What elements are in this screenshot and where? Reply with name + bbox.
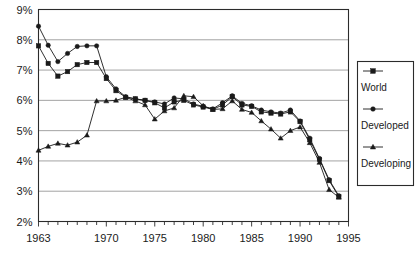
data-point-circle xyxy=(371,107,376,112)
data-point-square xyxy=(75,62,79,66)
series-world xyxy=(36,44,341,199)
y-axis-tick-labels: 2%3%4%5%6%7%8%9% xyxy=(17,4,33,228)
data-point-square xyxy=(46,61,50,65)
y-tick-label: 4% xyxy=(17,155,33,167)
plot-frame xyxy=(39,10,349,222)
x-tick-label: 1963 xyxy=(26,232,50,244)
y-tick-label: 8% xyxy=(17,34,33,46)
data-point-circle xyxy=(65,51,69,55)
data-point-circle xyxy=(288,108,292,112)
series-developed xyxy=(36,24,341,198)
data-point-circle xyxy=(327,178,331,182)
x-tick-label: 1995 xyxy=(336,232,360,244)
y-tick-label: 6% xyxy=(17,94,33,106)
series-layer xyxy=(36,24,341,199)
x-axis-tick-labels: 1963197019751980198519901995 xyxy=(26,232,360,244)
y-tick-label: 7% xyxy=(17,64,33,76)
data-point-square xyxy=(85,60,89,64)
data-point-triangle xyxy=(75,140,80,144)
data-point-triangle xyxy=(327,187,332,191)
x-tick-label: 1980 xyxy=(191,232,215,244)
data-point-circle xyxy=(94,44,98,48)
data-point-square xyxy=(65,69,69,73)
x-tick-label: 1990 xyxy=(288,232,312,244)
data-point-triangle xyxy=(84,133,89,137)
data-point-circle xyxy=(46,43,50,47)
line-chart: 2%3%4%5%6%7%8%9% 19631970197519801985199… xyxy=(0,0,417,259)
x-axis-ticks xyxy=(39,222,349,227)
data-point-circle xyxy=(85,44,89,48)
y-tick-label: 2% xyxy=(17,216,33,228)
data-point-circle xyxy=(104,75,108,79)
data-point-circle xyxy=(220,101,224,105)
data-point-circle xyxy=(114,87,118,91)
legend-label: Developing xyxy=(361,158,411,169)
data-point-circle xyxy=(56,59,60,63)
data-point-square xyxy=(56,74,60,78)
data-point-circle xyxy=(240,101,244,105)
legend-label: World xyxy=(361,82,387,93)
data-point-circle xyxy=(230,94,234,98)
data-point-square xyxy=(36,44,40,48)
chart-container: 2%3%4%5%6%7%8%9% 19631970197519801985199… xyxy=(0,0,417,259)
data-point-circle xyxy=(278,111,282,115)
series-line xyxy=(39,96,339,197)
data-point-circle xyxy=(298,119,302,123)
y-tick-label: 5% xyxy=(17,125,33,137)
x-tick-label: 1985 xyxy=(239,232,263,244)
x-tick-label: 1975 xyxy=(143,232,167,244)
data-point-circle xyxy=(259,108,263,112)
data-point-circle xyxy=(153,100,157,104)
data-point-circle xyxy=(162,102,166,106)
y-tick-label: 9% xyxy=(17,4,33,16)
data-point-circle xyxy=(172,96,176,100)
series-line xyxy=(39,46,339,197)
series-developing xyxy=(36,93,341,199)
data-point-circle xyxy=(75,44,79,48)
series-line xyxy=(39,26,339,196)
data-point-triangle xyxy=(181,93,186,97)
data-point-square xyxy=(371,69,376,74)
legend-label: Developed xyxy=(361,120,409,131)
data-point-square xyxy=(94,60,98,64)
data-point-circle xyxy=(269,110,273,114)
data-point-circle xyxy=(249,104,253,108)
x-tick-label: 1970 xyxy=(94,232,118,244)
data-point-triangle xyxy=(55,141,60,145)
data-point-circle xyxy=(36,24,40,28)
y-tick-label: 3% xyxy=(17,185,33,197)
data-point-circle xyxy=(191,102,195,106)
legend: WorldDevelopedDeveloping xyxy=(358,62,414,186)
